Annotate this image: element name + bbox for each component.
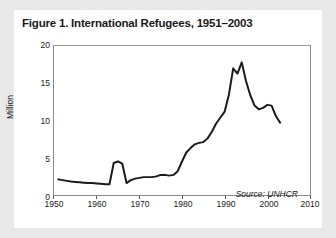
y-tick-label-15: 15 (41, 79, 50, 88)
x-tick-label-1970: 1970 (131, 200, 150, 209)
y-axis-title: Million (5, 95, 15, 119)
data-series-line (58, 62, 280, 184)
y-tick-label-5: 5 (45, 155, 50, 164)
x-tick-label-2000: 2000 (260, 200, 279, 209)
figure-title: Figure 1. International Refugees, 1951–2… (22, 17, 252, 29)
x-tick-label-1980: 1980 (174, 200, 193, 209)
figure-card: Figure 1. International Refugees, 1951–2… (14, 10, 322, 228)
x-axis-tick-labels: 1950 1960 1970 1980 1990 2000 2010 (14, 200, 322, 214)
y-axis-tick-labels: 20 15 10 5 0 (28, 10, 50, 228)
source-note: Source: UNHCR (236, 189, 298, 199)
x-tick-label-1950: 1950 (45, 200, 64, 209)
plot-area: Source: UNHCR (53, 45, 311, 196)
y-tick-label-10: 10 (41, 117, 50, 126)
x-tick-label-1960: 1960 (88, 200, 107, 209)
y-tick-label-20: 20 (41, 41, 50, 50)
x-tick-label-2010: 2010 (301, 200, 320, 209)
refugees-line-chart (54, 46, 310, 195)
x-tick-label-1990: 1990 (217, 200, 236, 209)
